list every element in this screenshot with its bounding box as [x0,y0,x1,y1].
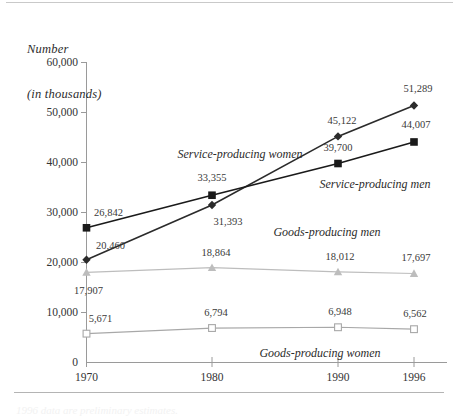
data-value-label: 17,697 [402,252,431,263]
x-tick-label: 1980 [201,371,224,383]
data-value-label: 17,907 [74,285,103,296]
footer-note: 1996 data are preliminary estimates. [16,404,178,416]
series-lines [87,106,415,334]
chart-figure: Number (in thousands) 010,00020,00030,00… [0,0,459,416]
data-value-labels: 20,46031,39345,12251,28926,84233,35539,7… [74,83,432,324]
data-value-label: 26,842 [94,207,123,218]
marker-square [208,191,216,199]
series-line [87,268,415,274]
y-axis-title: Number (in thousands) [27,12,102,132]
data-value-label: 20,460 [96,240,125,251]
data-value-label: 33,355 [198,172,227,183]
y-axis-title-line2: (in thousands) [27,87,102,102]
data-value-label: 18,012 [326,251,355,262]
marker-square [410,138,418,146]
data-value-label: 31,393 [214,216,243,227]
data-value-label: 18,864 [202,247,232,258]
marker-diamond [208,201,216,209]
marker-square-open [335,324,342,331]
marker-square-open [411,326,418,333]
data-value-label: 51,289 [404,83,433,94]
bottom-divider [14,392,444,393]
y-tick-label: 0 [72,356,78,368]
y-tick-label: 20,000 [46,256,78,269]
x-tick-label: 1996 [403,371,426,383]
marker-square-open [209,325,216,332]
x-axis-tick-labels: 1970198019901996 [75,371,426,383]
data-value-label: 45,122 [328,115,357,126]
data-value-label: 6,562 [403,308,427,319]
data-value-label: 39,700 [324,142,353,153]
data-value-label: 44,007 [402,119,431,130]
marker-diamond [410,101,418,109]
marker-diamond [334,132,342,140]
x-tick-label: 1990 [327,371,350,383]
series-label: Service-producing women [177,147,302,161]
series-label: Goods-producing women [259,346,380,360]
data-value-label: 6,948 [328,306,352,317]
data-value-label: 6,794 [204,307,228,318]
marker-square-open [83,330,90,337]
top-divider [6,2,453,3]
marker-square [334,160,342,168]
y-axis-title-line1: Number [27,42,102,57]
y-tick-label: 30,000 [46,206,78,219]
data-value-label: 5,671 [89,313,113,324]
x-tick-label: 1970 [75,371,98,383]
y-tick-label: 10,000 [46,306,78,319]
marker-square [83,224,91,232]
series-markers [82,101,418,337]
y-tick-label: 40,000 [46,156,78,169]
series-label: Goods-producing men [273,225,380,239]
series-line [87,327,415,333]
series-label: Service-producing men [319,177,430,191]
